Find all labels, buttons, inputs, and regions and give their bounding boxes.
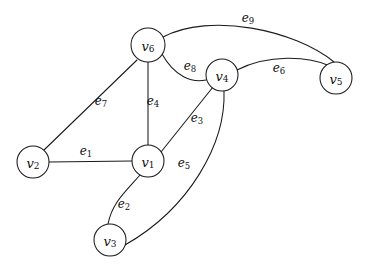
edge-label-e5: e5 (178, 156, 191, 171)
edge-label-e2: e2 (118, 197, 131, 212)
graph-edge-e7 (44, 60, 137, 150)
edge-labels-layer: e1e2e3e4e5e6e7e8e9 (80, 11, 286, 212)
edge-label-e3: e3 (191, 111, 204, 126)
edge-label-e8: e8 (184, 59, 197, 74)
graph-figure: v6v4v5v2v1v3 e1e2e3e4e5e6e7e8e9 (0, 0, 365, 271)
edge-label-e6: e6 (273, 61, 286, 76)
graph-vertex-v1: v1 (132, 145, 164, 177)
edge-label-e1: e1 (80, 144, 93, 159)
graph-canvas: v6v4v5v2v1v3 e1e2e3e4e5e6e7e8e9 (0, 0, 365, 271)
edge-label-e4: e4 (147, 94, 160, 109)
edge-label-e7: e7 (95, 94, 108, 109)
graph-edge-e9 (163, 25, 334, 62)
graph-vertex-v6: v6 (131, 28, 165, 62)
graph-edge-e1 (49, 161, 132, 162)
graph-edge-e3 (161, 87, 213, 152)
edge-label-e9: e9 (242, 11, 255, 26)
graph-vertex-v2: v2 (17, 146, 49, 178)
graph-vertex-v4: v4 (206, 59, 238, 91)
graph-vertex-v3: v3 (94, 224, 126, 256)
graph-vertex-v5: v5 (320, 62, 352, 94)
